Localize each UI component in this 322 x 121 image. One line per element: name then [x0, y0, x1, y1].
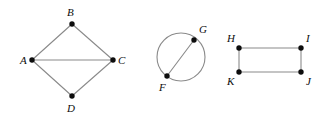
edge-D-C	[72, 60, 113, 96]
vertex-I	[298, 45, 303, 50]
vertex-A	[29, 57, 34, 62]
graph-drawing-surface	[0, 0, 322, 121]
vertex-K	[236, 69, 241, 74]
vertex-F	[164, 73, 169, 78]
vertex-B	[69, 21, 74, 26]
vertex-D	[69, 93, 74, 98]
edge-A-D	[32, 60, 72, 96]
vertex-label-G: G	[199, 24, 207, 35]
vertex-label-F: F	[159, 82, 166, 93]
vertex-label-B: B	[67, 7, 74, 18]
vertex-label-A: A	[20, 55, 27, 66]
vertex-label-K: K	[227, 76, 234, 87]
vertex-label-I: I	[306, 33, 310, 44]
vertex-C	[110, 57, 115, 62]
vertex-label-H: H	[227, 33, 235, 44]
graph-rectangle	[236, 45, 303, 74]
vertex-label-D: D	[67, 103, 75, 114]
vertex-label-C: C	[118, 55, 125, 66]
vertex-G	[191, 37, 196, 42]
graph-circle	[157, 33, 205, 81]
vertex-label-J: J	[306, 76, 311, 87]
edge-F-G	[167, 40, 194, 76]
graph-diamond	[29, 21, 115, 98]
vertex-J	[298, 69, 303, 74]
edge-A-B	[32, 24, 72, 60]
vertex-H	[236, 45, 241, 50]
edge-B-C	[72, 24, 113, 60]
figure-canvas: ABCDGFHIKJ	[0, 0, 322, 121]
